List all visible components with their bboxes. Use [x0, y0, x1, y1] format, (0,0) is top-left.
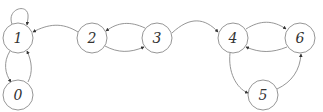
edge-6-to-4	[246, 47, 287, 52]
edge-0-to-1	[27, 51, 31, 82]
node-1: 1	[3, 23, 33, 53]
node-3: 3	[142, 23, 172, 53]
edge-4-to-5	[230, 53, 248, 93]
node-0-label: 0	[14, 87, 23, 103]
node-5: 5	[248, 80, 278, 110]
edge-4-to-6	[246, 22, 286, 29]
edge-3-to-2	[106, 23, 145, 31]
node-4-label: 4	[228, 30, 238, 46]
edge-1-to-0	[6, 51, 11, 82]
edge-3-to-4	[172, 21, 218, 33]
node-6-label: 6	[296, 30, 305, 46]
state-graph: 0 1 2 3 4 5 6	[0, 0, 323, 112]
node-4: 4	[218, 23, 248, 53]
node-0: 0	[3, 80, 33, 110]
node-5-label: 5	[259, 87, 268, 103]
edge-1-to-1-self-loop	[11, 9, 28, 25]
edge-2-to-3	[105, 46, 144, 51]
node-3-label: 3	[153, 30, 162, 46]
edge-2-to-1	[33, 25, 78, 32]
node-1-label: 1	[14, 30, 23, 46]
node-2: 2	[77, 23, 107, 53]
nodes: 0 1 2 3 4 5 6	[3, 23, 315, 110]
node-2-label: 2	[87, 30, 97, 46]
node-6: 6	[285, 23, 315, 53]
edge-5-to-6	[277, 54, 301, 89]
